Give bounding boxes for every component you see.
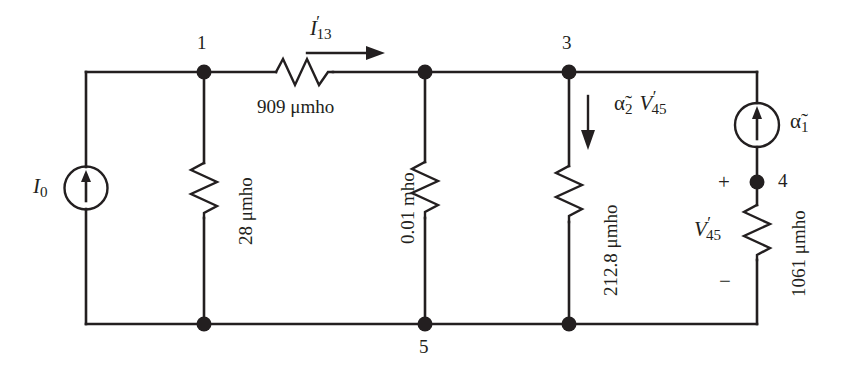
v45-prime-dep: ′: [653, 87, 657, 106]
dependent-source-label-alpha2: α̃2V′45: [614, 93, 667, 117]
resistor-value-28: 28 μmho: [236, 177, 255, 245]
resistor-value-1061: 1061 μmho: [789, 210, 808, 297]
i0-symbol: I: [33, 174, 40, 198]
node-label-3: 3: [562, 33, 572, 52]
resistor-value-909: 909 μmho: [257, 97, 334, 116]
resistor-28-symbol: [191, 163, 217, 218]
i13-prime: ′: [316, 12, 320, 31]
current-source-i0-arrow-head: [81, 170, 91, 182]
voltage-label-v45: V′45: [694, 219, 721, 243]
alpha2-symbol: α̃: [614, 91, 625, 115]
current-arrow-i13-head: [366, 46, 385, 60]
source-label-i0: I0: [33, 176, 48, 200]
junction-dot-node-1: [197, 65, 212, 80]
junction-dot-node-2: [418, 65, 433, 80]
i0-subscript: 0: [40, 184, 48, 200]
polarity-plus-sign: +: [718, 172, 730, 193]
v45-symbol-dep: V: [640, 91, 653, 115]
junction-dot-node-3: [562, 65, 577, 80]
alpha2-subscript: 2: [625, 101, 633, 117]
v45-symbol: V: [694, 217, 707, 241]
node-label-1: 1: [197, 33, 207, 52]
current-label-i13: I′13: [310, 18, 332, 42]
alpha1-subscript: 1: [801, 119, 809, 135]
junction-dot-bottom-3: [562, 317, 577, 332]
junction-dot-bottom-1: [197, 317, 212, 332]
circuit-diagram-figure: 1 3 4 5 I0 I′13 909 μmho 28 μmho 0.01 mh…: [0, 0, 852, 375]
alpha1-symbol: α̃: [790, 109, 801, 133]
dependent-source-alpha1-arrow-head: [752, 106, 762, 119]
resistor-value-0.01: 0.01 mho: [398, 172, 417, 244]
resistor-2128-symbol: [556, 166, 582, 222]
resistor-1061-symbol: [744, 205, 770, 260]
junction-dot-node-5: [418, 317, 433, 332]
v45-prime: ′: [707, 213, 711, 232]
current-arrow-alpha2-head: [581, 130, 595, 150]
resistor-value-212.8: 212.8 μmho: [601, 205, 620, 296]
junction-dot-node-4: [750, 175, 765, 190]
polarity-minus-sign: −: [719, 271, 731, 292]
node-label-5: 5: [419, 337, 429, 356]
resistor-909-symbol: [276, 59, 333, 85]
dependent-source-label-alpha1: α̃1: [790, 111, 809, 135]
node-label-4: 4: [778, 171, 788, 190]
